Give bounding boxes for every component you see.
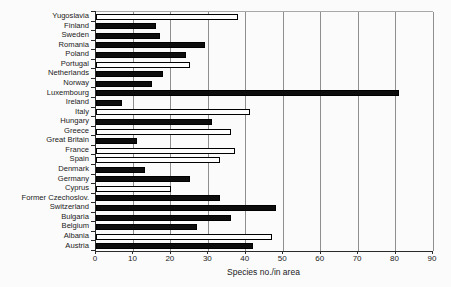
category-label: Yugoslavia bbox=[0, 11, 89, 21]
y-axis-tick bbox=[91, 154, 96, 155]
bar-sweden bbox=[96, 33, 160, 39]
y-axis-tick bbox=[91, 40, 96, 41]
y-axis-tick bbox=[91, 68, 96, 69]
gridline-50 bbox=[283, 12, 284, 251]
category-label: Austria bbox=[0, 241, 89, 251]
category-label: Sweden bbox=[0, 30, 89, 40]
x-tick-label-80: 80 bbox=[380, 254, 410, 263]
bar-hungary bbox=[96, 119, 212, 125]
gridline-80 bbox=[395, 12, 396, 251]
category-label: Great Britain bbox=[0, 135, 89, 145]
category-label: Hungary bbox=[0, 116, 89, 126]
category-label: Portugal bbox=[0, 59, 89, 69]
y-axis-tick bbox=[91, 87, 96, 88]
category-label: Denmark bbox=[0, 164, 89, 174]
category-label: Belgium bbox=[0, 221, 89, 231]
x-tick-label-60: 60 bbox=[305, 254, 335, 263]
bar-chart: YugoslaviaFinlandSwedenRomaniaPolandPort… bbox=[0, 0, 451, 287]
bar-bulgaria bbox=[96, 215, 231, 221]
x-tick-label-40: 40 bbox=[230, 254, 260, 263]
plot-area bbox=[95, 11, 433, 252]
y-axis-tick bbox=[91, 116, 96, 117]
gridline-60 bbox=[320, 12, 321, 251]
bar-portugal bbox=[96, 62, 190, 68]
y-axis-tick bbox=[91, 21, 96, 22]
y-axis-tick bbox=[91, 193, 96, 194]
bar-spain bbox=[96, 157, 220, 163]
bar-luxembourg bbox=[96, 90, 399, 96]
gridline-40 bbox=[245, 12, 246, 251]
y-axis-tick bbox=[91, 231, 96, 232]
x-tick-label-20: 20 bbox=[155, 254, 185, 263]
bar-denmark bbox=[96, 167, 145, 173]
category-label: Switzerland bbox=[0, 202, 89, 212]
y-axis-tick bbox=[91, 145, 96, 146]
bar-germany bbox=[96, 176, 190, 182]
y-axis-tick bbox=[91, 78, 96, 79]
category-label: Finland bbox=[0, 21, 89, 31]
x-axis-title: Species no./in area bbox=[95, 267, 432, 277]
bar-poland bbox=[96, 52, 186, 58]
bar-finland bbox=[96, 23, 156, 29]
y-axis-tick bbox=[91, 11, 96, 12]
bar-switzerland bbox=[96, 205, 276, 211]
x-tick-label-0: 0 bbox=[80, 254, 110, 263]
bar-netherlands bbox=[96, 71, 163, 77]
category-label: Poland bbox=[0, 49, 89, 59]
y-axis-tick bbox=[91, 107, 96, 108]
bar-ireland bbox=[96, 100, 122, 106]
y-axis-tick bbox=[91, 240, 96, 241]
y-axis-tick bbox=[91, 97, 96, 98]
x-tick-label-90: 90 bbox=[417, 254, 447, 263]
bar-cyprus bbox=[96, 186, 171, 192]
y-axis-tick bbox=[91, 135, 96, 136]
bar-romania bbox=[96, 42, 205, 48]
y-axis-tick bbox=[91, 49, 96, 50]
category-label: Greece bbox=[0, 126, 89, 136]
gridline-70 bbox=[358, 12, 359, 251]
y-axis-tick bbox=[91, 221, 96, 222]
bar-italy bbox=[96, 109, 250, 115]
bar-norway bbox=[96, 81, 152, 87]
category-label: Ireland bbox=[0, 97, 89, 107]
bar-belgium bbox=[96, 224, 197, 230]
bar-albania bbox=[96, 234, 272, 240]
category-label: Cyprus bbox=[0, 183, 89, 193]
category-label: Netherlands bbox=[0, 68, 89, 78]
category-label: Romania bbox=[0, 40, 89, 50]
bar-yugoslavia bbox=[96, 14, 238, 20]
x-tick-label-10: 10 bbox=[117, 254, 147, 263]
category-label: Luxembourg bbox=[0, 88, 89, 98]
category-label: Norway bbox=[0, 78, 89, 88]
y-axis-tick bbox=[91, 164, 96, 165]
bar-great-britain bbox=[96, 138, 137, 144]
y-axis-tick bbox=[91, 174, 96, 175]
y-axis-tick bbox=[91, 30, 96, 31]
category-label: Bulgaria bbox=[0, 212, 89, 222]
category-label: France bbox=[0, 145, 89, 155]
category-label: Spain bbox=[0, 154, 89, 164]
y-axis-tick bbox=[91, 183, 96, 184]
category-label: Former Czechoslov. bbox=[0, 193, 89, 203]
category-label: Albania bbox=[0, 231, 89, 241]
bar-greece bbox=[96, 129, 231, 135]
y-axis-tick bbox=[91, 126, 96, 127]
y-axis-tick bbox=[91, 212, 96, 213]
x-tick-label-70: 70 bbox=[342, 254, 372, 263]
bar-france bbox=[96, 148, 235, 154]
category-label: Italy bbox=[0, 107, 89, 117]
y-axis-tick bbox=[91, 202, 96, 203]
x-tick-label-50: 50 bbox=[267, 254, 297, 263]
bar-austria bbox=[96, 243, 253, 249]
bar-former-czechoslov- bbox=[96, 195, 220, 201]
y-axis-tick bbox=[91, 59, 96, 60]
x-tick-label-30: 30 bbox=[192, 254, 222, 263]
category-label: Germany bbox=[0, 174, 89, 184]
gridline-90 bbox=[433, 12, 434, 251]
